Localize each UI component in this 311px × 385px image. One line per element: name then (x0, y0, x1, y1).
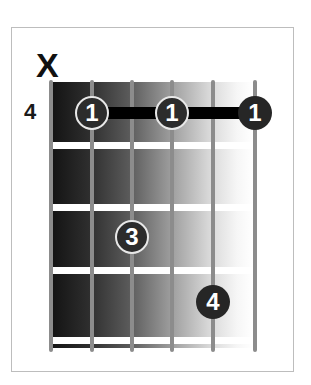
finger-dot: 3 (115, 220, 149, 254)
string-3 (130, 80, 134, 352)
finger-dot: 1 (238, 96, 272, 130)
fret-line-3 (53, 267, 253, 274)
fret-line-2 (53, 204, 253, 211)
fret-line-1 (53, 142, 253, 149)
muted-string-marker: X (36, 48, 59, 82)
finger-dot: 1 (75, 96, 109, 130)
string-1 (49, 80, 53, 352)
finger-dot: 4 (196, 285, 230, 319)
fret-line-4 (53, 337, 253, 344)
start-fret-label: 4 (24, 101, 36, 123)
finger-dot: 1 (155, 96, 189, 130)
